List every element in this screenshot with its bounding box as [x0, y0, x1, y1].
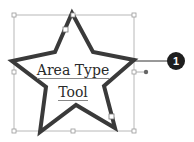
area-text-line-2: Tool: [20, 84, 126, 100]
handle-bottom-right[interactable]: [132, 129, 136, 133]
handle-middle-left[interactable]: [12, 70, 16, 74]
callout-badge: 1: [167, 52, 185, 70]
area-text-line-1: Area Type: [20, 62, 126, 78]
handle-dot[interactable]: [144, 70, 148, 74]
handle-bottom-left[interactable]: [12, 129, 16, 133]
in-port-handle[interactable]: [63, 27, 68, 32]
out-port-handle[interactable]: [109, 114, 114, 119]
handle-middle-right[interactable]: [132, 70, 136, 74]
handle-bottom-middle[interactable]: [71, 129, 75, 133]
handle-top-middle[interactable]: [71, 13, 75, 17]
handle-top-left[interactable]: [12, 13, 16, 17]
handle-top-right[interactable]: [132, 13, 136, 17]
